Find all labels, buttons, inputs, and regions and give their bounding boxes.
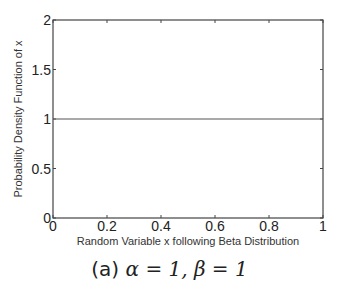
x-tick-label: 0.2 — [97, 218, 117, 234]
beta-pdf-chart: 00.511.52 00.20.40.60.81 Probability Den… — [0, 0, 339, 255]
y-axis-label: Probability Density Function of x — [12, 40, 24, 198]
x-tick-labels: 00.20.40.60.81 — [49, 218, 327, 234]
figure-caption: (a) α = 1, β = 1 — [0, 257, 339, 281]
y-tick-label: 1 — [43, 111, 51, 127]
x-tick-label: 0.8 — [259, 218, 279, 234]
y-tick-label: 0.5 — [32, 161, 52, 177]
x-axis-label: Random Variable x following Beta Distrib… — [77, 235, 299, 247]
x-tick-label: 0.4 — [151, 218, 171, 234]
x-tick-label: 1 — [319, 218, 327, 234]
y-tick-labels: 00.511.52 — [32, 12, 52, 226]
x-tick-label: 0.6 — [205, 218, 225, 234]
caption-prefix: (a) — [91, 257, 125, 281]
y-tick-label: 1.5 — [32, 62, 52, 78]
y-tick-label: 2 — [43, 12, 51, 28]
caption-math: α = 1, β = 1 — [126, 257, 248, 281]
x-tick-label: 0 — [49, 218, 57, 234]
